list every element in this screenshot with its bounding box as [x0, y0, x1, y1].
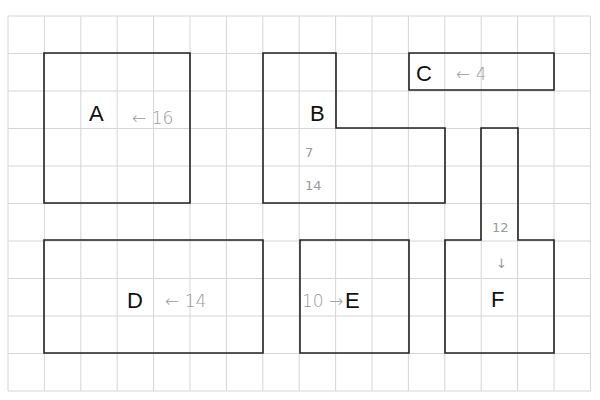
shape-f-annotation: 12 [492, 220, 509, 235]
shape-a-annotation: ← 16 [132, 108, 173, 128]
shape-e: 10 → E [300, 240, 409, 353]
shape-b-label: B [310, 101, 325, 126]
shape-c-label: C [416, 61, 432, 86]
shape-f-arrow-icon: ↓ [496, 256, 507, 271]
shape-b-annotation-bottom: 14 [305, 178, 322, 193]
shape-f-label: F [491, 287, 504, 312]
shape-e-label: E [345, 288, 360, 313]
grid-diagram: A ← 16 B 7 14 C ← 4 D ← 14 10 → E 12 ↓ F [0, 0, 600, 400]
shape-d-label: D [127, 288, 143, 313]
shape-b-annotation-top: 7 [305, 145, 313, 160]
shape-e-annotation: 10 → [302, 291, 343, 311]
shape-a-label: A [89, 101, 104, 126]
shape-c-annotation: ← 4 [456, 64, 486, 84]
shape-d-annotation: ← 14 [165, 291, 206, 311]
